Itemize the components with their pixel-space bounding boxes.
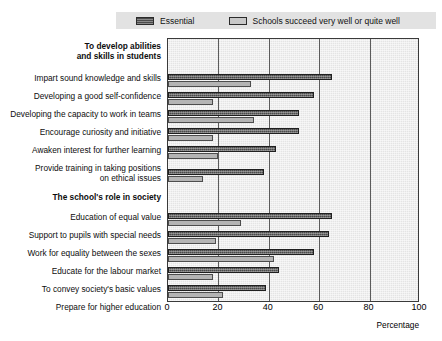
bar-succeed [168, 153, 218, 159]
bar-essential [168, 74, 332, 80]
category-label: Education of equal value [0, 213, 167, 223]
bar-row [168, 213, 418, 227]
category-label: Educate for the labour market [0, 267, 167, 277]
x-tick-label-20: 20 [212, 302, 222, 313]
legend-swatch-essential-icon [136, 17, 154, 25]
x-tick-label-60: 60 [313, 302, 323, 313]
x-axis-title: Percentage [377, 320, 419, 330]
bar-row [168, 267, 418, 281]
bar-succeed [168, 238, 216, 244]
category-label: Impart sound knowledge and skills [0, 74, 167, 84]
bar-row [168, 231, 418, 245]
plot-area [167, 38, 419, 302]
x-axis-ticks: 020406080100 [167, 302, 419, 316]
legend-entry-essential: Essential [136, 16, 195, 26]
bar-essential [168, 146, 276, 152]
category-label: Work for equality between the sexes [0, 249, 167, 259]
bar-row [168, 169, 418, 183]
group-label-2: The school's role in society [0, 193, 167, 203]
bar-succeed [168, 256, 274, 262]
bar-essential [168, 267, 279, 273]
bar-row [168, 285, 418, 299]
bar-essential [168, 249, 314, 255]
group-label-1: To develop abilitiesand skills in studen… [0, 42, 167, 61]
bar-essential [168, 110, 299, 116]
bar-essential [168, 128, 299, 134]
category-label: Awaken interest for further learning [0, 146, 167, 156]
bar-succeed [168, 292, 223, 298]
bar-succeed [168, 176, 203, 182]
category-label-column: To develop abilitiesand skills in studen… [0, 38, 167, 302]
category-label: Encourage curiosity and initiative [0, 128, 167, 138]
bar-succeed [168, 81, 251, 87]
category-label: Developing the capacity to work in teams [0, 110, 167, 120]
category-label: Provide training in taking positionson e… [0, 164, 167, 183]
legend-label-succeed: Schools succeed very well or quite well [253, 16, 400, 26]
category-label: Support to pupils with special needs [0, 231, 167, 241]
bar-succeed [168, 220, 241, 226]
bar-row [168, 92, 418, 106]
legend-swatch-succeed-icon [229, 17, 247, 25]
chart-legend: Essential Schools succeed very well or q… [116, 12, 436, 29]
category-label: Developing a good self-confidence [0, 92, 167, 102]
legend-label-essential: Essential [160, 16, 195, 26]
bar-row [168, 146, 418, 160]
bar-row [168, 128, 418, 142]
bar-succeed [168, 99, 213, 105]
bar-succeed [168, 274, 213, 280]
bar-row [168, 249, 418, 263]
bar-succeed [168, 135, 213, 141]
bar-essential [168, 213, 332, 219]
category-label: To convey society's basic values [0, 285, 167, 295]
x-tick-label-0: 0 [164, 302, 169, 313]
bar-essential [168, 92, 314, 98]
bar-essential [168, 285, 266, 291]
category-label: Prepare for higher education [0, 303, 167, 313]
bar-essential [168, 169, 264, 175]
chart-area: To develop abilitiesand skills in studen… [0, 38, 442, 308]
x-tick-label-80: 80 [364, 302, 374, 313]
legend-entry-succeed: Schools succeed very well or quite well [229, 16, 400, 26]
x-tick-label-100: 100 [411, 302, 426, 313]
bar-succeed [168, 117, 254, 123]
bar-essential [168, 231, 329, 237]
bar-row [168, 74, 418, 88]
x-tick-label-40: 40 [263, 302, 273, 313]
bar-row [168, 110, 418, 124]
